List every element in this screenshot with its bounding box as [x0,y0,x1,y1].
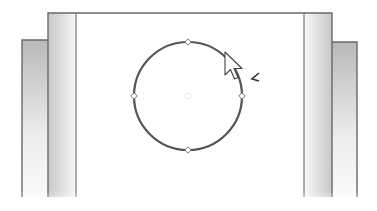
left-rail-band [48,13,76,197]
sketch-canvas[interactable] [0,0,377,211]
left-side-block [22,40,48,197]
right-rail-band [304,13,332,197]
right-band-face [304,13,332,197]
handle-left-icon[interactable] [131,93,137,99]
handle-top-icon[interactable] [185,39,191,45]
sketch-viewport[interactable] [0,0,377,211]
left-block-face [22,40,48,197]
cursor-arrow-shape [225,52,242,79]
right-side-block [332,42,357,197]
handle-bottom-icon[interactable] [185,147,191,153]
handle-right-icon[interactable] [239,93,245,99]
circle-center-mark-icon[interactable] [185,93,191,99]
left-band-face [48,13,76,197]
right-block-face [332,42,357,197]
bottom-fade [0,190,377,211]
chevron-left-icon [252,73,259,81]
center-point-icon[interactable] [185,93,191,99]
arrow-cursor-icon [225,52,242,79]
coincident-feedback-icon [252,73,259,81]
